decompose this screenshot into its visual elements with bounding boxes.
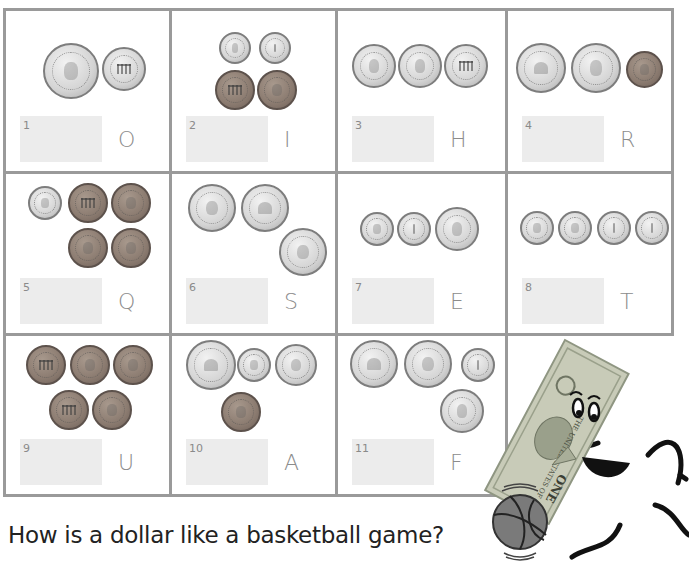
- answer-box-4[interactable]: 4: [522, 116, 604, 162]
- dime-heads-coin-icon: [28, 186, 62, 220]
- code-letter: O: [118, 127, 135, 152]
- puzzle-cell-10: 10A: [172, 336, 335, 494]
- grid-line-row1: [3, 171, 674, 174]
- problem-number: 11: [355, 442, 369, 455]
- answer-box-11[interactable]: 11: [352, 439, 434, 485]
- quarter-heads-coin-icon: [279, 228, 327, 276]
- quarter-tails-coin-icon: [241, 184, 289, 232]
- penny-tails-coin-icon: [215, 70, 255, 110]
- code-letter: U: [118, 450, 134, 475]
- puzzle-cell-8: 8T: [508, 174, 671, 333]
- penny-tails-coin-icon: [26, 345, 66, 385]
- puzzle-cell-6: 6S: [172, 174, 335, 333]
- code-letter: S: [284, 289, 298, 314]
- puzzle-cell-9: 9U: [6, 336, 169, 494]
- nickel-heads-coin-icon: [352, 44, 396, 88]
- quarter-tails-coin-icon: [516, 43, 566, 93]
- penny-heads-coin-icon: [92, 390, 132, 430]
- nickel-heads-coin-icon: [440, 389, 484, 433]
- problem-number: 7: [355, 281, 362, 294]
- nickel-tails-coin-icon: [444, 44, 488, 88]
- problem-number: 3: [355, 119, 362, 132]
- dollar-bill-mascot-icon: THE UNITED STATES OF AMERICA ONE: [480, 335, 689, 562]
- grid-border-bottom: [3, 494, 506, 497]
- problem-number: 8: [525, 281, 532, 294]
- penny-heads-coin-icon: [221, 392, 261, 432]
- quarter-heads-coin-icon: [43, 43, 99, 99]
- nickel-heads-coin-icon: [398, 44, 442, 88]
- problem-number: 6: [189, 281, 196, 294]
- puzzle-cell-3: 3H: [338, 11, 505, 171]
- quarter-heads-coin-icon: [571, 43, 621, 93]
- grid-border-left: [3, 8, 6, 497]
- problem-number: 9: [23, 442, 30, 455]
- code-letter: F: [450, 450, 463, 475]
- answer-box-7[interactable]: 7: [352, 278, 434, 324]
- puzzle-cell-2: 2I: [172, 11, 335, 171]
- puzzle-cell-5: 5Q: [6, 174, 169, 333]
- code-letter: H: [450, 127, 467, 152]
- code-letter: I: [284, 127, 291, 152]
- problem-number: 2: [189, 119, 196, 132]
- puzzle-cell-1: 1O: [6, 11, 169, 171]
- grid-border-right: [671, 8, 674, 336]
- problem-number: 4: [525, 119, 532, 132]
- answer-box-5[interactable]: 5: [20, 278, 102, 324]
- answer-box-10[interactable]: 10: [186, 439, 268, 485]
- penny-tails-coin-icon: [49, 390, 89, 430]
- dime-heads-coin-icon: [558, 211, 592, 245]
- code-letter: Q: [118, 289, 135, 314]
- code-letter: R: [620, 127, 635, 152]
- penny-heads-coin-icon: [68, 228, 108, 268]
- dime-tails-coin-icon: [259, 32, 291, 64]
- nickel-heads-coin-icon: [435, 207, 479, 251]
- answer-box-2[interactable]: 2: [186, 116, 268, 162]
- dime-tails-coin-icon: [397, 212, 431, 246]
- dime-heads-coin-icon: [520, 211, 554, 245]
- penny-heads-coin-icon: [626, 51, 663, 88]
- quarter-tails-coin-icon: [350, 340, 398, 388]
- grid-border-top: [3, 8, 674, 11]
- quarter-tails-coin-icon: [186, 340, 236, 390]
- penny-heads-coin-icon: [113, 345, 153, 385]
- problem-number: 5: [23, 281, 30, 294]
- quarter-heads-coin-icon: [404, 340, 452, 388]
- penny-heads-coin-icon: [111, 228, 151, 268]
- grid-line-col1: [169, 8, 172, 497]
- answer-box-9[interactable]: 9: [20, 439, 102, 485]
- answer-box-1[interactable]: 1: [20, 116, 102, 162]
- code-letter: T: [620, 289, 633, 314]
- puzzle-cell-7: 7E: [338, 174, 505, 333]
- dime-heads-coin-icon: [360, 212, 394, 246]
- nickel-tails-coin-icon: [102, 47, 146, 91]
- code-letter: A: [284, 450, 299, 475]
- penny-heads-coin-icon: [70, 345, 110, 385]
- dime-tails-coin-icon: [635, 211, 669, 245]
- penny-heads-coin-icon: [257, 70, 297, 110]
- grid-line-col2: [335, 8, 338, 497]
- code-letter: E: [450, 289, 464, 314]
- answer-box-8[interactable]: 8: [522, 278, 604, 324]
- answer-box-6[interactable]: 6: [186, 278, 268, 324]
- nickel-heads-coin-icon: [275, 344, 317, 386]
- answer-box-3[interactable]: 3: [352, 116, 434, 162]
- penny-heads-coin-icon: [111, 183, 151, 223]
- problem-number: 10: [189, 442, 203, 455]
- problem-number: 1: [23, 119, 30, 132]
- dime-heads-coin-icon: [219, 32, 251, 64]
- dime-tails-coin-icon: [597, 211, 631, 245]
- penny-tails-coin-icon: [68, 183, 108, 223]
- puzzle-cell-4: 4R: [508, 11, 671, 171]
- dime-heads-coin-icon: [237, 348, 271, 382]
- riddle-question: How is a dollar like a basketball game?: [8, 522, 444, 548]
- quarter-heads-coin-icon: [188, 184, 236, 232]
